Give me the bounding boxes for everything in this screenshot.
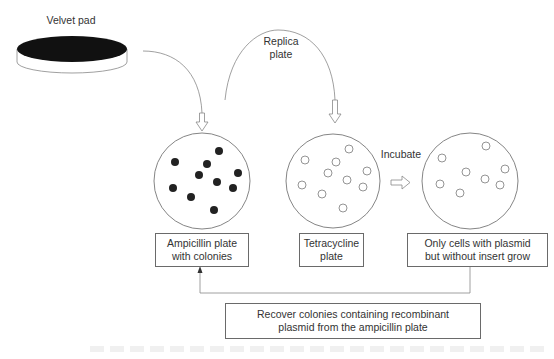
replica-label: Replica plate: [251, 35, 311, 61]
return-arrow-icon: [198, 266, 471, 293]
result-box-line1: Only cells with plasmid: [424, 237, 530, 250]
tetracycline-box-line2: plate: [304, 250, 359, 263]
recover-box-line1: Recover colonies containing recombinant: [257, 308, 449, 321]
ampicillin-plate-box: Ampicillin plate with colonies: [155, 233, 249, 267]
result-plate-box: Only cells with plasmid but without inse…: [407, 233, 548, 267]
velvet-pad: [17, 36, 127, 73]
tetracycline-box-line1: Tetracycline: [304, 237, 359, 250]
incubate-label: Incubate: [378, 148, 424, 161]
velvet-pad-label: Velvet pad: [26, 14, 116, 27]
ampicillin-box-line1: Ampicillin plate: [167, 237, 237, 250]
replica-label-line1: Replica: [251, 35, 311, 48]
figure-caption-illegible: [90, 346, 550, 352]
recover-box: Recover colonies containing recombinant …: [225, 303, 481, 339]
transfer-arrow-icon: [143, 51, 208, 131]
incubate-arrow-icon: [391, 176, 410, 189]
result-box-line2: but without insert grow: [424, 250, 530, 263]
tetracycline-plate-box: Tetracycline plate: [299, 233, 364, 267]
ampicillin-box-line2: with colonies: [167, 250, 237, 263]
replica-label-line2: plate: [251, 48, 311, 61]
result-plate: [422, 133, 518, 229]
recover-box-line2: plasmid from the ampicillin plate: [257, 321, 449, 334]
ampicillin-plate: [154, 133, 250, 229]
tetracycline-plate: [286, 134, 380, 228]
